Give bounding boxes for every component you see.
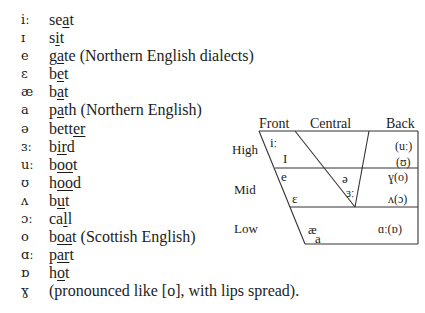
vowel-symbol: iː (270, 135, 277, 150)
row-label-mid: Mid (234, 182, 256, 197)
chart-left-edge (259, 131, 305, 244)
vowel-symbol: (uː) (395, 139, 412, 153)
row-label-high: High (232, 142, 259, 157)
vowel-chart: Front Central Back High Mid Low iː I (uː… (0, 0, 425, 313)
column-header-front: Front (259, 116, 289, 131)
vowel-symbol: ɣ(o) (388, 170, 408, 184)
chart-central-back-line (355, 131, 369, 207)
row-label-low: Low (234, 221, 258, 236)
vowel-symbol: (ʊ) (396, 155, 411, 169)
column-header-back: Back (386, 116, 415, 131)
vowel-symbol: ɜː (346, 186, 354, 200)
vowel-symbol: ɛ (292, 191, 298, 206)
vowel-symbol: I (283, 151, 287, 166)
vowel-symbol: ɑː(ɒ) (378, 222, 402, 236)
vowel-symbol: ə (342, 171, 348, 186)
column-header-central: Central (310, 116, 351, 131)
vowel-symbol: e (281, 169, 287, 184)
vowel-symbol: a (315, 231, 321, 246)
vowel-symbol: ʌ(ɔ) (388, 192, 407, 206)
